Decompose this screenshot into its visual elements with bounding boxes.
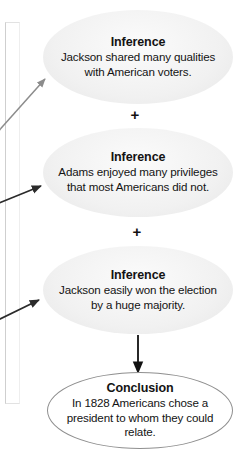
node-inference-3[interactable]: Inference Jackson easily won the electio…	[43, 246, 233, 334]
operator-plus-2: +	[129, 224, 145, 239]
operator-plus-1: +	[127, 107, 143, 122]
node-inference-2[interactable]: Inference Adams enjoyed many privileges …	[43, 128, 233, 217]
arrow-into-inference-1	[0, 79, 45, 136]
arrow-into-inference-2	[0, 186, 41, 205]
node-title: Conclusion	[106, 381, 173, 395]
arrow-into-inference-3	[0, 300, 39, 322]
node-title: Inference	[111, 150, 166, 164]
node-body: Adams enjoyed many privileges that most …	[43, 165, 233, 194]
node-title: Inference	[111, 268, 166, 282]
node-body: Jackson easily won the election by a hug…	[43, 283, 233, 312]
diagram-canvas: Inference Jackson shared many qualities …	[0, 0, 237, 449]
node-body: In 1828 Americans chose a president to w…	[48, 396, 232, 440]
node-conclusion[interactable]: Conclusion In 1828 Americans chose a pre…	[47, 372, 233, 449]
node-title: Inference	[111, 35, 166, 49]
node-body: Jackson shared many qualities with Ameri…	[43, 50, 233, 79]
node-inference-1[interactable]: Inference Jackson shared many qualities …	[43, 10, 233, 104]
